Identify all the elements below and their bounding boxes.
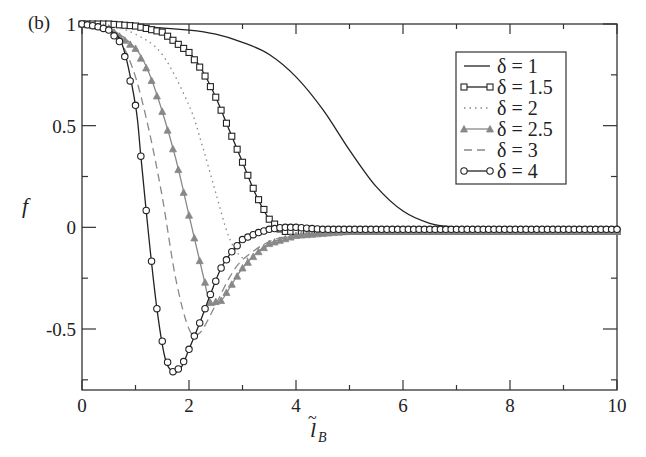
x-tick-label: 2: [184, 395, 194, 416]
legend: δ = 1 δ = 1.5 δ = 2 δ = 2.5 δ = 3 δ = 4: [456, 52, 566, 184]
legend-entry-delta-2: δ = 2: [497, 97, 538, 119]
x-tick-label: 10: [608, 395, 627, 416]
y-axis-label: f: [22, 193, 31, 218]
x-axis-label: l ~ B: [308, 409, 327, 445]
y-tick-label: 1: [67, 14, 77, 35]
line-chart: 024681010.50-0.5 (b) f l ~ B δ = 1 δ = 1…: [0, 0, 646, 457]
legend-entry-delta-1-5: δ = 1.5: [497, 76, 553, 98]
x-tick-label: 6: [398, 395, 408, 416]
y-tick-label: 0: [67, 217, 77, 238]
legend-entry-delta-3: δ = 3: [497, 139, 538, 161]
x-tick-label: 8: [505, 395, 515, 416]
x-axis-label-tilde: ~: [308, 409, 317, 426]
x-tick-label: 0: [77, 395, 87, 416]
legend-entry-delta-2-5: δ = 2.5: [497, 118, 553, 140]
x-tick-label: 4: [291, 395, 301, 416]
y-tick-label: -0.5: [46, 319, 76, 340]
legend-entry-delta-4: δ = 4: [497, 160, 538, 182]
legend-entry-delta-1: δ = 1: [497, 55, 538, 77]
x-axis-label-subscript: B: [318, 430, 327, 445]
panel-label: (b): [28, 12, 50, 34]
y-tick-label: 0.5: [52, 116, 76, 137]
